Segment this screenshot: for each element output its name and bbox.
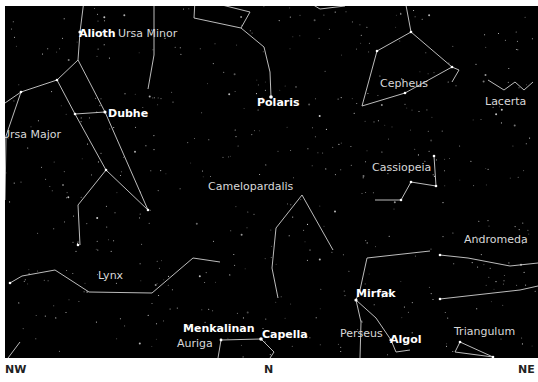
constellation-label-triangulum: Triangulum — [454, 326, 515, 337]
star-label-dubhe: Dubhe — [108, 108, 148, 119]
draco-segment — [148, 6, 154, 89]
lynx-tail — [8, 342, 20, 358]
star-label-menkalinan: Menkalinan — [183, 323, 255, 334]
cepheus-lines — [362, 6, 452, 106]
compass-n: N — [264, 364, 273, 375]
compass-nw: NW — [5, 364, 26, 375]
camelopardalis-west — [272, 195, 302, 298]
ursa-minor-handle — [241, 28, 271, 97]
constellation-label-cassiopeia: Cassiopeia — [372, 162, 431, 173]
constellation-label-ursa-minor: Ursa Minor — [118, 28, 177, 39]
star-label-capella: Capella — [262, 329, 308, 340]
constellation-label-lacerta: Lacerta — [485, 96, 526, 107]
star-label-alioth: Alioth — [79, 28, 116, 39]
perseus-andromeda-link — [367, 251, 430, 258]
star-label-mirfak: Mirfak — [356, 288, 396, 299]
compass-ne: NE — [518, 364, 535, 375]
star-label-polaris: Polaris — [257, 97, 300, 108]
ursa-major-bowl-top — [57, 80, 105, 114]
andromeda-upper — [440, 255, 538, 266]
constellation-label-andromeda: Andromeda — [464, 234, 528, 245]
cepheus-tail — [452, 67, 459, 82]
draco-top — [305, 6, 345, 9]
ursa-major-edge — [78, 60, 148, 210]
constellation-label-auriga: Auriga — [177, 338, 213, 349]
ursa-major-handle — [5, 6, 84, 103]
star-label-algol: Algol — [390, 334, 422, 345]
sky-map: Ursa MinorCepheusLacertaUrsa MajorCamelo… — [5, 6, 538, 358]
ursa-major-leg — [78, 170, 106, 245]
constellation-label-lynx: Lynx — [98, 270, 123, 281]
constellation-label-cepheus: Cepheus — [380, 78, 428, 89]
ursa-major-front-leg — [5, 92, 21, 200]
camelopardalis-east — [302, 195, 333, 250]
constellation-label-ursa-major: Ursa Major — [5, 129, 61, 140]
triangulum-lines — [455, 342, 493, 357]
andromeda-lower — [440, 286, 538, 299]
constellation-label-perseus: Perseus — [340, 328, 383, 339]
constellation-label-camelopardalis: Camelopardalis — [208, 181, 293, 192]
